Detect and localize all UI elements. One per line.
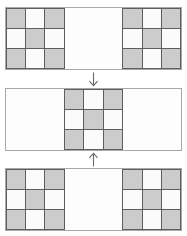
grid-cell-blank	[162, 130, 181, 150]
grid-cell-empty	[122, 28, 142, 49]
grid-cell-empty	[25, 169, 45, 190]
grid-column	[123, 8, 142, 69]
grid-cell-filled	[122, 48, 142, 69]
grid-cell-blank	[84, 8, 103, 28]
grid-cell-filled	[44, 209, 64, 230]
grid-cell-empty	[122, 189, 142, 210]
grid-column	[142, 8, 161, 69]
grid-column	[64, 89, 83, 150]
grid-cell-blank	[123, 89, 142, 109]
grid-cell-blank	[64, 210, 83, 230]
grid-column	[142, 169, 161, 230]
grid-cell-filled	[122, 169, 142, 190]
grid-cell-blank	[103, 28, 122, 48]
grid-cell-filled	[103, 129, 123, 150]
grid-cell-filled	[122, 209, 142, 230]
grid-column	[162, 8, 181, 69]
grid-cell-empty	[142, 169, 162, 190]
grid-cell-blank	[142, 89, 161, 109]
grid-cell-blank	[84, 49, 103, 69]
grid-column-blank	[45, 89, 64, 150]
grid-cell-empty	[83, 129, 103, 150]
grid-cell-blank	[162, 109, 181, 129]
grid-cell-blank	[45, 109, 64, 129]
grid-cell-filled	[161, 48, 181, 69]
grid-cell-empty	[103, 109, 123, 130]
grid-column-blank	[162, 89, 181, 150]
grid-cell-filled	[64, 129, 84, 150]
grid-cell-empty	[161, 28, 181, 49]
grid-cell-filled	[6, 8, 26, 29]
grid-cell-filled	[64, 89, 84, 110]
grid-column	[123, 169, 142, 230]
grid-column-blank	[142, 89, 161, 150]
grid-cell-blank	[103, 189, 122, 209]
grid-cell-empty	[44, 28, 64, 49]
grid-cell-empty	[64, 109, 84, 130]
grid-column	[25, 169, 44, 230]
grid-cell-filled	[83, 109, 103, 130]
grid-column	[6, 8, 25, 69]
grid-cell-empty	[44, 189, 64, 210]
grid-column-blank	[103, 8, 122, 69]
grid-cell-blank	[162, 89, 181, 109]
grid-column-blank	[64, 169, 83, 230]
grid-cell-blank	[45, 130, 64, 150]
grid-column	[162, 169, 181, 230]
top-panel	[5, 7, 182, 70]
grid-column-blank	[103, 169, 122, 230]
grid-cell-filled	[142, 28, 162, 49]
grid-cell-filled	[122, 8, 142, 29]
grid-cell-blank	[123, 130, 142, 150]
grid-cell-filled	[6, 209, 26, 230]
grid-cell-empty	[25, 8, 45, 29]
middle-panel	[5, 88, 182, 151]
grid-cell-empty	[161, 189, 181, 210]
grid-cell-blank	[64, 169, 83, 189]
grid-cell-blank	[103, 210, 122, 230]
grid-column	[6, 169, 25, 230]
grid-cell-blank	[64, 189, 83, 209]
grid-cell-blank	[103, 169, 122, 189]
grid-cell-blank	[84, 210, 103, 230]
grid-cell-blank	[25, 130, 44, 150]
grid-cell-blank	[103, 49, 122, 69]
grid-cell-filled	[6, 48, 26, 69]
grid-cell-filled	[44, 48, 64, 69]
grid-cell-blank	[64, 8, 83, 28]
grid-cell-blank	[64, 28, 83, 48]
grid-cell-filled	[6, 169, 26, 190]
grid-cell-blank	[84, 189, 103, 209]
grid-cell-blank	[64, 49, 83, 69]
grid-cell-empty	[83, 89, 103, 110]
grid-cell-blank	[103, 8, 122, 28]
grid-cell-blank	[123, 109, 142, 129]
grid-column-blank	[123, 89, 142, 150]
grid-cell-blank	[25, 89, 44, 109]
grid-column-blank	[84, 169, 103, 230]
grid-cell-blank	[25, 109, 44, 129]
grid-cell-blank	[6, 130, 25, 150]
grid-cell-empty	[6, 189, 26, 210]
grid-column	[25, 8, 44, 69]
grid-column-blank	[6, 89, 25, 150]
grid-cell-filled	[25, 28, 45, 49]
grid-cell-empty	[6, 28, 26, 49]
grid-cell-empty	[142, 209, 162, 230]
grid-column	[103, 89, 122, 150]
grid-cell-filled	[103, 89, 123, 110]
grid-cell-filled	[44, 169, 64, 190]
grid-cell-blank	[6, 109, 25, 129]
grid-column	[45, 169, 64, 230]
grid-cell-blank	[6, 89, 25, 109]
grid-cell-blank	[84, 169, 103, 189]
grid-column-blank	[25, 89, 44, 150]
grid-column-blank	[64, 8, 83, 69]
grid-cell-filled	[161, 209, 181, 230]
grid-cell-empty	[25, 48, 45, 69]
grid-cell-filled	[44, 8, 64, 29]
grid-cell-blank	[84, 28, 103, 48]
pattern-transition-diagram	[0, 0, 187, 236]
grid-cell-blank	[45, 89, 64, 109]
grid-cell-filled	[161, 169, 181, 190]
